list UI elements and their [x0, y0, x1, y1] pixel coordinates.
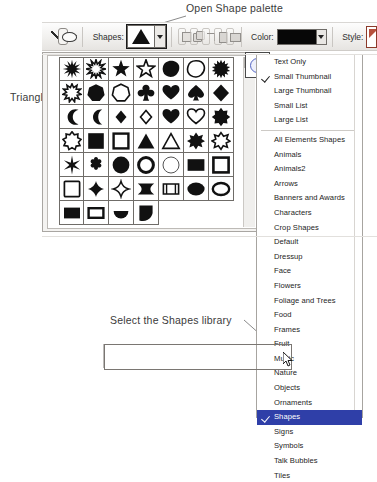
shape-cell-heart-filled[interactable] — [159, 105, 184, 129]
add-to-shape-icon[interactable] — [190, 28, 198, 45]
shape-cell-flower-6-petal[interactable] — [84, 153, 109, 177]
shape-cell-diamond-small-solid[interactable] — [109, 105, 134, 129]
shape-cell-sunburst-outline[interactable] — [84, 57, 109, 81]
scalloped-circle-outline-icon — [62, 131, 82, 151]
custom-shape-tool-icon[interactable] — [58, 28, 68, 45]
shape-cell-splat-solid[interactable] — [184, 129, 209, 153]
shape-cell-diamond-rounded-outline[interactable] — [109, 177, 134, 201]
shape-cell-half-circle-solid[interactable] — [109, 201, 134, 225]
shape-cell-heart-outline[interactable] — [184, 105, 209, 129]
menu-item-animals2[interactable]: Animals2 — [257, 162, 362, 177]
menu-item-ornaments[interactable]: Ornaments — [257, 396, 362, 411]
starburst-12-point-icon — [62, 59, 82, 79]
menu-item-arrows[interactable]: Arrows — [257, 177, 362, 192]
line-tool-icon[interactable] — [50, 30, 55, 44]
flower-solid-icon — [211, 107, 231, 127]
menu-item-talk-bubbles[interactable]: Talk Bubbles — [257, 454, 362, 469]
menu-item-tiles[interactable]: Tiles — [257, 469, 362, 482]
shape-cell-triangle-outline[interactable] — [159, 129, 184, 153]
menu-item-label: Characters — [274, 208, 312, 217]
shape-cell-flower-solid[interactable] — [209, 105, 234, 129]
shape-cell-scalloped-circle-outline[interactable] — [59, 129, 84, 153]
shape-cell-bowtie-horizontal-solid[interactable] — [134, 177, 159, 201]
shape-cell-crescent-moon-thin[interactable] — [84, 105, 109, 129]
menu-item-large-list[interactable]: Large List — [257, 113, 362, 128]
menu-item-dressup[interactable]: Dressup — [257, 250, 362, 265]
shape-cell-ellipse-outline[interactable] — [209, 177, 234, 201]
color-dropdown-caret[interactable] — [317, 29, 327, 45]
shape-cell-heptagon-solid[interactable] — [84, 81, 109, 105]
rectangle-outline-icon — [211, 155, 231, 175]
shape-cell-crescent-moon-thick[interactable] — [59, 105, 84, 129]
shape-cell-rectangle-solid[interactable] — [184, 153, 209, 177]
shape-cell-circle-ring[interactable] — [134, 153, 159, 177]
new-shape-layer-icon[interactable] — [178, 28, 186, 45]
shape-cell-blob-outline[interactable] — [184, 57, 209, 81]
menu-item-food[interactable]: Food — [257, 308, 362, 323]
shape-cell-quarter-circle-solid[interactable] — [134, 201, 159, 225]
palette-scrollbar[interactable] — [243, 57, 255, 227]
shape-cell-rectangle-outline[interactable] — [209, 153, 234, 177]
shape-cell-club[interactable] — [134, 81, 159, 105]
color-picker[interactable] — [277, 29, 327, 45]
shape-cell-starburst-solid[interactable] — [209, 57, 234, 81]
menu-item-large-thumbnail[interactable]: Large Thumbnail — [257, 84, 362, 99]
selected-shape-preview[interactable] — [127, 25, 155, 48]
shape-cell-spade[interactable] — [184, 81, 209, 105]
shape-cell-diamond-rounded-solid[interactable] — [84, 177, 109, 201]
shape-cell-blob-solid[interactable] — [159, 57, 184, 81]
style-swatch[interactable] — [366, 26, 377, 48]
menu-item-crop-shapes[interactable]: Crop Shapes — [257, 221, 362, 236]
shape-cell-bowtie-horizontal-outline[interactable] — [159, 177, 184, 201]
shape-cell-rectangle-small-solid[interactable] — [59, 201, 84, 225]
menu-item-text-only[interactable]: Text Only — [257, 55, 362, 70]
shape-cell-gear-sun[interactable] — [59, 81, 84, 105]
bowtie-horizontal-outline-icon — [161, 179, 181, 199]
shape-cell-asterisk-6-point[interactable] — [59, 153, 84, 177]
intersect-shape-icon[interactable] — [214, 28, 222, 45]
menu-item-all-elements-shapes[interactable]: All Elements Shapes — [257, 133, 362, 148]
shape-cell-diamond-solid[interactable] — [209, 81, 234, 105]
color-swatch[interactable] — [277, 29, 317, 45]
shape-cell-star-5-point-outline[interactable] — [134, 57, 159, 81]
subtract-from-shape-icon[interactable] — [202, 28, 210, 45]
shape-cell-circle-outline-thin[interactable] — [159, 153, 184, 177]
menu-item-small-list[interactable]: Small List — [257, 99, 362, 114]
menu-item-banners-and-awards[interactable]: Banners and Awards — [257, 191, 362, 206]
shape-grid[interactable] — [59, 57, 234, 225]
menu-item-flowers[interactable]: Flowers — [257, 279, 362, 294]
menu-item-foliage-and-trees[interactable]: Foliage and Trees — [257, 294, 362, 309]
menu-item-frames[interactable]: Frames — [257, 323, 362, 338]
shape-cell-square-solid[interactable] — [84, 129, 109, 153]
shape-cell-square-rounded-outline[interactable] — [59, 177, 84, 201]
shape-cell-star-5-point-solid[interactable] — [109, 57, 134, 81]
menu-item-label: Tiles — [274, 471, 290, 480]
shape-cell-splat-outline[interactable] — [209, 129, 234, 153]
menu-item-symbols[interactable]: Symbols — [257, 439, 362, 454]
menu-item-small-thumbnail[interactable]: Small Thumbnail — [257, 70, 362, 85]
shape-cell-heart-solid[interactable] — [159, 81, 184, 105]
shape-cell-diamond-small-outline[interactable] — [134, 105, 159, 129]
shape-cell-ellipse-solid[interactable] — [184, 177, 209, 201]
triangle-outline-icon — [161, 131, 181, 151]
menu-item-characters[interactable]: Characters — [257, 206, 362, 221]
menu-item-face[interactable]: Face — [257, 264, 362, 279]
menu-item-signs[interactable]: Signs — [257, 425, 362, 440]
open-shape-palette-button[interactable] — [127, 25, 166, 48]
spade-icon — [186, 83, 206, 103]
shape-cell-circle-solid[interactable] — [109, 153, 134, 177]
shape-cell-triangle-solid[interactable] — [134, 129, 159, 153]
menu-item-shapes[interactable]: Shapes — [257, 410, 362, 425]
menu-item-animals[interactable]: Animals — [257, 148, 362, 163]
exclude-shape-icon[interactable] — [226, 28, 234, 45]
diamond-small-outline-icon — [136, 107, 156, 127]
shape-cell-square-outline[interactable] — [109, 129, 134, 153]
shape-cell-heptagon-outline[interactable] — [109, 81, 134, 105]
shape-cell-starburst-12-point[interactable] — [59, 57, 84, 81]
chevron-down-icon — [318, 35, 324, 39]
shape-palette-caret[interactable] — [155, 25, 166, 48]
shape-cell-rectangle-small-outline[interactable] — [84, 201, 109, 225]
menu-item-objects[interactable]: Objects — [257, 381, 362, 396]
menu-item-default[interactable]: Default — [257, 235, 362, 250]
menu-item-label: Food — [274, 310, 292, 319]
